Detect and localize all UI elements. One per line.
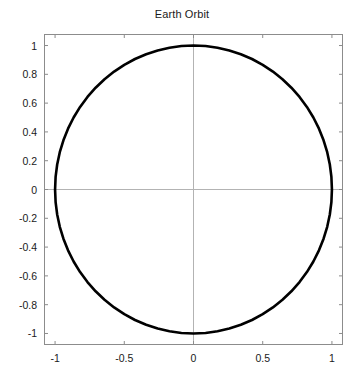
x-tick-label: -0.5 — [115, 352, 133, 364]
y-tick-label: 0.4 — [0, 126, 37, 138]
y-tick-label: -0.8 — [0, 299, 37, 311]
y-tick-label: 0.6 — [0, 97, 37, 109]
gridlines-group — [44, 34, 343, 345]
x-tick-label: 1 — [329, 352, 335, 364]
figure-canvas: Earth Orbit -1-0.8-0.6-0.4-0.200.20.40.6… — [0, 0, 364, 384]
x-tick-label: -1 — [50, 352, 59, 364]
plot-svg — [44, 34, 343, 345]
y-tick-label: 1 — [0, 40, 37, 52]
x-tick-label: 0.5 — [255, 352, 270, 364]
y-tick-label: -0.4 — [0, 241, 37, 253]
y-tick-label: -0.6 — [0, 270, 37, 282]
y-tick-label: 0.8 — [0, 68, 37, 80]
y-tick-label: 0 — [0, 184, 37, 196]
chart-title: Earth Orbit — [0, 8, 364, 20]
plot-area — [44, 34, 343, 345]
y-tick-label: -1 — [0, 327, 37, 339]
x-tick-label: 0 — [191, 352, 197, 364]
y-tick-label: -0.2 — [0, 212, 37, 224]
y-tick-label: 0.2 — [0, 155, 37, 167]
